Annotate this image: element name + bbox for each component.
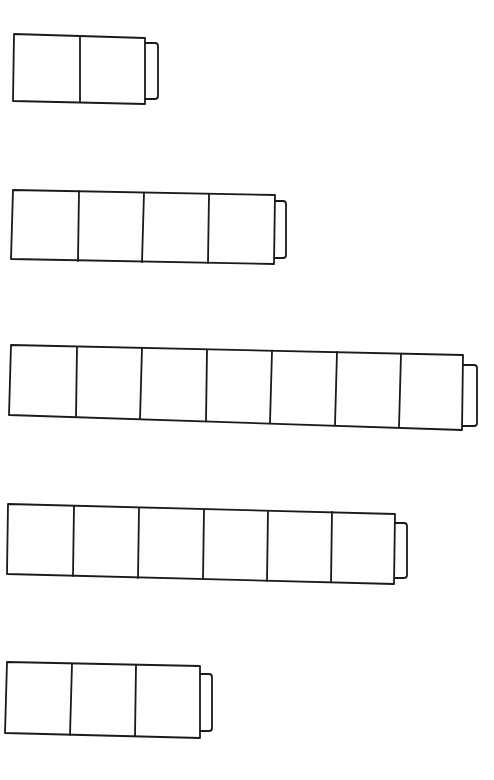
cell-divider <box>270 351 272 423</box>
battery-terminal <box>463 365 477 426</box>
cell-divider <box>73 506 74 576</box>
cell-divider <box>138 508 139 578</box>
cell-divider <box>78 191 79 261</box>
battery-terminal <box>200 674 212 731</box>
cell-divider <box>267 511 268 581</box>
battery-5 <box>5 662 212 738</box>
cell-divider <box>140 348 142 419</box>
cell-divider <box>142 193 144 262</box>
cell-divider <box>76 347 77 417</box>
battery-body <box>5 662 200 738</box>
cell-divider <box>206 350 207 421</box>
battery-diagram <box>0 0 494 780</box>
battery-terminal <box>395 523 407 578</box>
battery-3 <box>9 345 477 430</box>
battery-terminal <box>275 201 286 258</box>
battery-1 <box>13 34 158 104</box>
battery-body <box>13 34 145 104</box>
cell-divider <box>70 664 72 735</box>
cell-divider <box>208 194 209 263</box>
cell-divider <box>331 512 332 582</box>
cell-divider <box>135 665 136 736</box>
cell-divider <box>335 352 337 425</box>
battery-2 <box>11 190 286 264</box>
battery-4 <box>7 504 407 584</box>
battery-terminal <box>145 43 158 99</box>
battery-body <box>7 504 395 584</box>
cell-divider <box>203 510 204 579</box>
cell-divider <box>399 354 401 427</box>
